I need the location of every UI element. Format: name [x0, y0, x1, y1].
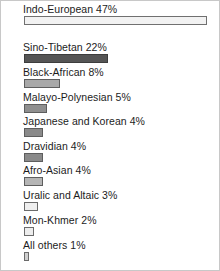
- bar: [24, 202, 38, 211]
- bar: [24, 104, 47, 113]
- chart-plot-area: Indo-European 47%Sino-Tibetan 22%Black-A…: [1, 1, 219, 270]
- bar-label: Uralic and Altaic 3%: [23, 189, 117, 201]
- bar: [24, 227, 34, 236]
- bar: [24, 153, 43, 162]
- language-families-bar-chart: Indo-European 47%Sino-Tibetan 22%Black-A…: [0, 0, 220, 271]
- bar-label: Indo-European 47%: [23, 3, 117, 15]
- bar: [24, 177, 43, 186]
- bar: [24, 79, 60, 88]
- bar-label: Japanese and Korean 4%: [23, 115, 145, 127]
- bar-label: Mon-Khmer 2%: [23, 214, 97, 226]
- bar: [24, 54, 108, 63]
- bar: [24, 128, 43, 137]
- bar-label: Afro-Asian 4%: [23, 164, 91, 176]
- bar-label: All others 1%: [23, 239, 86, 251]
- bar-label: Malayo-Polynesian 5%: [23, 91, 131, 103]
- bar: [24, 16, 207, 25]
- bar: [24, 252, 29, 261]
- bar-label: Black-African 8%: [23, 66, 104, 78]
- bar-label: Dravidian 4%: [23, 140, 86, 152]
- bar-label: Sino-Tibetan 22%: [23, 41, 107, 53]
